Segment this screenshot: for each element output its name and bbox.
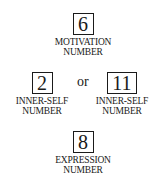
inner-self-number-box-a: 2 (32, 72, 53, 94)
motivation-label-line2: NUMBER (55, 47, 111, 57)
expression-label-line1: EXPRESSION (55, 155, 111, 165)
expression-label-line2: NUMBER (55, 165, 111, 175)
expression-number-node: 8 EXPRESSION NUMBER (43, 131, 123, 175)
motivation-label-line1: MOTIVATION (55, 37, 111, 47)
inner-self-number-node-a: 2 INNER-SELF NUMBER (2, 72, 82, 116)
inner-self-b-label-line1: INNER-SELF (96, 96, 148, 106)
motivation-number-box: 6 (73, 13, 94, 35)
expression-number-label: EXPRESSION NUMBER (55, 155, 111, 175)
inner-self-number-label-b: INNER-SELF NUMBER (96, 96, 148, 116)
motivation-number-label: MOTIVATION NUMBER (55, 37, 111, 57)
inner-self-number-label-a: INNER-SELF NUMBER (16, 96, 68, 116)
expression-number-box: 8 (73, 131, 94, 153)
inner-self-a-label-line1: INNER-SELF (16, 96, 68, 106)
motivation-number-node: 6 MOTIVATION NUMBER (43, 13, 123, 57)
inner-self-a-label-line2: NUMBER (16, 106, 68, 116)
inner-self-number-node-b: 11 INNER-SELF NUMBER (82, 72, 162, 116)
inner-self-b-label-line2: NUMBER (96, 106, 148, 116)
inner-self-number-box-b: 11 (107, 72, 137, 94)
